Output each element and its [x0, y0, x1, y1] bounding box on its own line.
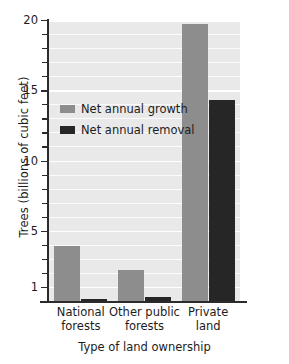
- y-tick-minor: [42, 175, 47, 176]
- y-tick-label: 10: [0, 154, 38, 168]
- y-tick-label: 15: [0, 83, 38, 97]
- removal-swatch-icon: [60, 126, 75, 134]
- gridline-minor: [49, 34, 240, 35]
- plot-area: [49, 20, 240, 301]
- bar-chart: Trees (billions of cubic feet) 15101520 …: [0, 0, 289, 364]
- bar-growth-2: [182, 24, 208, 301]
- y-tick-minor: [42, 76, 47, 77]
- y-tick-minor: [42, 273, 47, 274]
- x-category-label-line: land: [163, 320, 253, 334]
- gridline-minor: [49, 62, 240, 63]
- chart-legend: Net annual growth Net annual removal: [60, 102, 195, 144]
- y-tick-major: [41, 287, 48, 288]
- y-tick-major: [41, 90, 48, 91]
- bar-growth-1: [118, 270, 144, 301]
- y-tick-minor: [42, 118, 47, 119]
- bar-removal-2: [209, 100, 235, 301]
- x-axis-title: Type of land ownership: [0, 340, 289, 354]
- gridline-minor: [49, 48, 240, 49]
- gridline-major: [49, 90, 240, 92]
- y-tick-minor: [42, 189, 47, 190]
- y-tick-minor: [42, 132, 47, 133]
- x-category-label-line: Private: [163, 306, 253, 320]
- bar-growth-0: [54, 246, 80, 301]
- y-tick-major: [41, 161, 48, 162]
- y-tick-minor: [42, 217, 47, 218]
- y-tick-major: [41, 231, 48, 232]
- gridline-major: [49, 20, 240, 22]
- y-tick-minor: [42, 203, 47, 204]
- y-tick-minor: [42, 62, 47, 63]
- growth-swatch-icon: [60, 105, 75, 113]
- y-tick-label: 1: [0, 280, 38, 294]
- y-tick-minor: [42, 245, 47, 246]
- legend-label-growth: Net annual growth: [81, 102, 188, 116]
- y-tick-minor: [42, 48, 47, 49]
- x-axis-line: [40, 301, 247, 303]
- y-tick-label: 20: [0, 13, 38, 27]
- y-tick-minor: [42, 259, 47, 260]
- y-tick-minor: [42, 34, 47, 35]
- x-category-label-2: Privateland: [163, 306, 253, 333]
- y-tick-major: [41, 20, 48, 21]
- legend-item-removal: Net annual removal: [60, 123, 195, 136]
- y-tick-minor: [42, 146, 47, 147]
- gridline-minor: [49, 76, 240, 77]
- y-tick-label: 5: [0, 224, 38, 238]
- y-tick-minor: [42, 104, 47, 105]
- legend-item-growth: Net annual growth: [60, 102, 195, 115]
- legend-label-removal: Net annual removal: [81, 123, 195, 137]
